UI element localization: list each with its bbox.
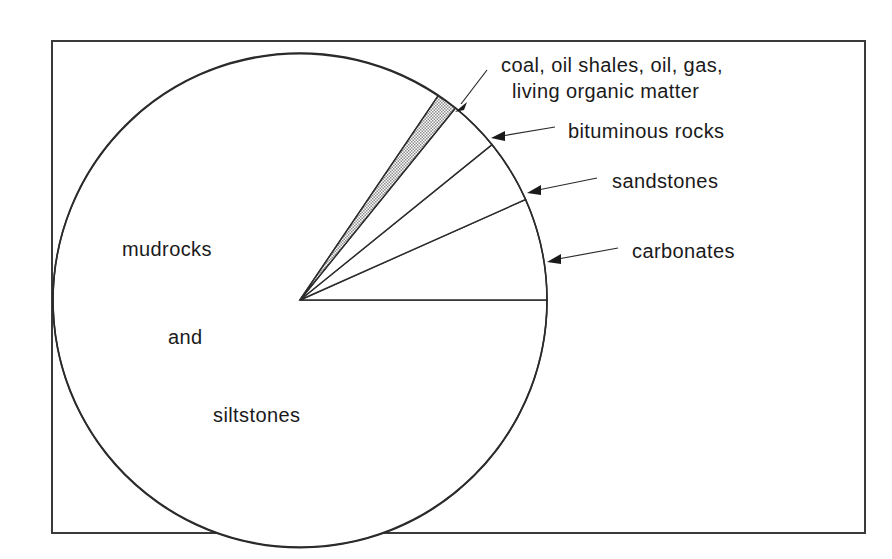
leader-sandstones bbox=[527, 178, 597, 195]
arrowhead-bituminous-rocks bbox=[491, 131, 505, 141]
figure-container: coal, oil shales, oil, gas, living organ… bbox=[0, 0, 892, 559]
leader-bituminous-rocks bbox=[491, 127, 555, 141]
leader-carbonates bbox=[547, 248, 618, 264]
label-coal-oil-shales-line2: living organic matter bbox=[512, 80, 699, 102]
pie-chart-figure: coal, oil shales, oil, gas, living organ… bbox=[0, 0, 892, 559]
label-coal-oil-shales-line1: coal, oil shales, oil, gas, bbox=[501, 54, 723, 76]
label-mudrocks: mudrocks bbox=[122, 238, 212, 260]
arrowhead-sandstones bbox=[527, 185, 541, 195]
label-siltstones: siltstones bbox=[213, 404, 300, 426]
label-carbonates: carbonates bbox=[632, 240, 735, 262]
pie-group bbox=[53, 53, 547, 548]
leader-coal-oil-shales bbox=[455, 70, 487, 112]
label-bituminous-rocks: bituminous rocks bbox=[568, 120, 724, 142]
label-and: and bbox=[168, 326, 203, 348]
arrowhead-carbonates bbox=[547, 254, 561, 264]
label-sandstones: sandstones bbox=[612, 170, 718, 192]
